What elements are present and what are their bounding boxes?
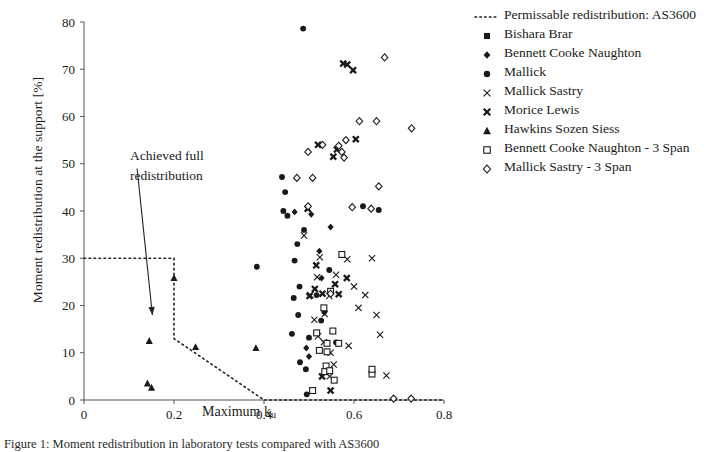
data-point	[373, 312, 379, 318]
x-tick-label: 0.8	[436, 407, 452, 422]
data-point	[297, 284, 303, 290]
data-point	[324, 349, 330, 355]
data-point	[377, 332, 383, 338]
data-point	[375, 183, 382, 190]
data-point	[328, 224, 334, 231]
legend: Permissable redistribution: AS3600Bishar…	[470, 6, 708, 177]
data-point	[279, 174, 285, 180]
data-point	[408, 395, 415, 402]
data-point	[306, 335, 312, 341]
data-point	[304, 391, 310, 397]
legend-marker	[470, 44, 504, 61]
data-point	[314, 274, 320, 280]
data-point	[376, 207, 382, 213]
y-tick-label: 50	[62, 156, 75, 171]
data-point	[192, 343, 199, 350]
legend-label: Bennett Cooke Naughton - 3 Span	[504, 139, 690, 156]
data-point	[284, 213, 290, 219]
legend-label: Morice Lewis	[504, 101, 579, 118]
data-point	[383, 372, 389, 378]
x-tick-label: 0.2	[166, 407, 182, 422]
data-point	[312, 286, 318, 292]
data-point	[484, 90, 491, 97]
legend-item[interactable]: Mallick Sastry	[470, 82, 708, 99]
legend-item[interactable]: Bishara Brar	[470, 25, 708, 42]
data-point	[351, 284, 357, 290]
permissable-redistribution-line	[84, 258, 444, 400]
data-point	[360, 203, 366, 209]
data-point	[300, 26, 306, 32]
legend-item[interactable]: Bennett Cooke Naughton	[470, 44, 708, 61]
legend-item[interactable]: Permissable redistribution: AS3600	[470, 6, 708, 23]
data-point	[321, 305, 327, 311]
filled-diamond-icon	[474, 49, 500, 61]
data-point	[484, 147, 490, 153]
data-point	[310, 388, 316, 394]
y-tick-label: 0	[69, 393, 76, 408]
data-point	[336, 291, 342, 297]
data-point	[484, 33, 490, 39]
filled-square-icon	[474, 30, 500, 42]
data-point	[333, 272, 339, 278]
legend-marker	[470, 82, 504, 99]
legend-label: Permissable redistribution: AS3600	[504, 6, 696, 23]
data-point	[484, 109, 490, 115]
legend-item[interactable]: Bennett Cooke Naughton - 3 Span	[470, 139, 708, 156]
x-tick-label: 0.6	[346, 407, 363, 422]
data-point	[295, 312, 301, 318]
legend-label: Bennett Cooke Naughton	[504, 44, 641, 61]
data-point	[292, 209, 298, 216]
annotation-arrow-shaft	[137, 168, 152, 314]
legend-marker	[470, 25, 504, 42]
data-point	[381, 54, 388, 61]
data-point	[362, 292, 368, 298]
y-tick-label: 30	[62, 251, 75, 266]
data-point	[353, 136, 359, 142]
data-point	[356, 118, 363, 125]
open-diamond-icon	[474, 163, 500, 175]
data-point	[294, 241, 300, 247]
bold-cross-icon	[474, 106, 500, 118]
data-point	[330, 328, 336, 334]
data-point	[317, 254, 323, 260]
data-point	[314, 330, 320, 336]
data-point	[282, 189, 288, 195]
figure-caption: Figure 1: Moment redistribution in labor…	[4, 437, 706, 452]
legend-marker	[470, 120, 504, 137]
data-point	[327, 368, 333, 374]
data-point	[303, 345, 309, 352]
legend-label: Mallick Sastry - 3 Span	[504, 158, 632, 175]
filled-circle-icon	[474, 68, 500, 80]
y-tick-label: 60	[62, 109, 75, 124]
data-point	[369, 255, 375, 261]
dotted-line-icon	[474, 11, 500, 23]
legend-item[interactable]: Mallick Sastry - 3 Span	[470, 158, 708, 175]
data-point	[484, 71, 490, 77]
data-point	[355, 305, 361, 311]
series-mallick	[254, 26, 382, 398]
data-point	[146, 337, 153, 344]
legend-item[interactable]: Morice Lewis	[470, 101, 708, 118]
data-point	[316, 347, 322, 353]
legend-item[interactable]: Hawkins Sozen Siess	[470, 120, 708, 137]
data-point	[331, 361, 337, 367]
legend-label: Bishara Brar	[504, 25, 573, 42]
data-point	[280, 208, 286, 214]
data-point	[349, 204, 356, 211]
data-point	[331, 377, 337, 383]
data-point	[373, 118, 380, 125]
data-point	[301, 227, 307, 233]
data-point	[308, 211, 314, 218]
data-point	[311, 317, 317, 323]
data-point	[483, 165, 490, 173]
data-point	[306, 353, 312, 360]
data-point	[332, 281, 338, 287]
data-point	[483, 127, 491, 134]
data-point	[252, 344, 259, 351]
data-point	[320, 291, 326, 297]
data-point	[390, 395, 397, 402]
legend-item[interactable]: Mallick	[470, 63, 708, 80]
filled-triangle-icon	[474, 125, 500, 137]
y-tick-label: 70	[62, 62, 75, 77]
data-point	[368, 205, 375, 212]
